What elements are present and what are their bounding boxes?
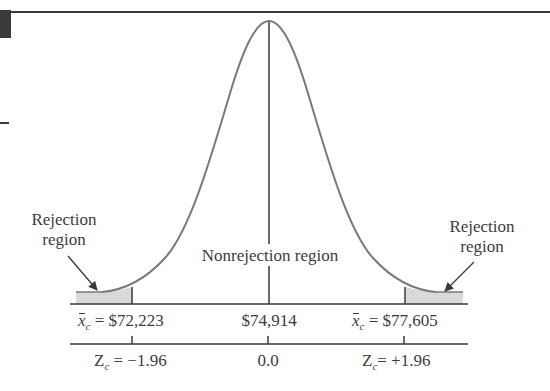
normal-distribution-diagram: Rejection region Rejection region Nonrej… — [0, 0, 550, 391]
right-rejection-label: Rejection region — [432, 217, 532, 257]
left-critical-z-value: = −1.96 — [109, 351, 166, 370]
left-critical-xbar-value: = $72,223 — [90, 311, 163, 330]
mean-z-label: 0.0 — [238, 351, 298, 371]
right-rejection-line2: region — [432, 237, 532, 257]
left-critical-z-label: Zc = −1.96 — [94, 351, 167, 376]
xbar-symbol: x — [352, 311, 360, 330]
right-critical-xbar-label: xc = $77,605 — [352, 311, 438, 336]
right-rejection-line1: Rejection — [432, 217, 532, 237]
z-symbol: Z — [362, 351, 372, 370]
left-rejection-label: Rejection region — [14, 210, 114, 250]
corner-block — [0, 10, 11, 38]
left-arrow-icon — [68, 256, 97, 290]
right-arrow-icon — [445, 262, 474, 291]
right-critical-xbar-value: = $77,605 — [364, 311, 437, 330]
nonrejection-label: Nonrejection region — [180, 246, 360, 266]
right-critical-z-label: Zc= +1.96 — [362, 351, 430, 376]
left-rejection-area — [76, 287, 132, 304]
left-rejection-line1: Rejection — [14, 210, 114, 230]
xbar-symbol: x — [78, 311, 86, 330]
left-rejection-line2: region — [14, 230, 114, 250]
right-rejection-area — [405, 287, 463, 304]
right-critical-z-value: = +1.96 — [377, 351, 430, 370]
z-symbol: Z — [94, 351, 104, 370]
mean-xbar-label: $74,914 — [229, 311, 309, 331]
left-critical-xbar-label: xc = $72,223 — [78, 311, 164, 336]
